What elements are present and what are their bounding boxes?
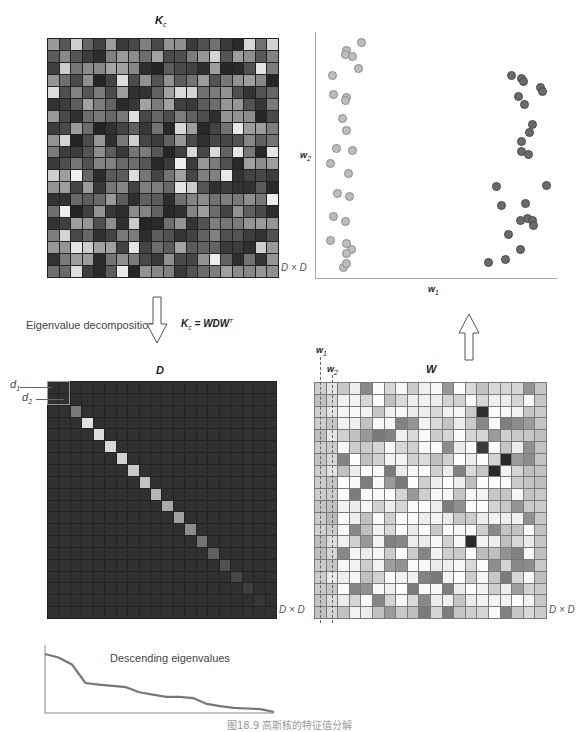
w-cell xyxy=(385,489,396,500)
d-cell xyxy=(48,465,58,476)
kc-cell xyxy=(152,230,163,241)
d-cell xyxy=(48,489,58,500)
scatter-point-dark xyxy=(519,77,528,86)
w-cell xyxy=(501,395,512,406)
d-cell xyxy=(254,489,264,500)
w-cell xyxy=(373,501,384,512)
d-cell xyxy=(59,441,69,452)
d-cell xyxy=(254,512,264,523)
kc-cell xyxy=(152,147,163,158)
kc-cell xyxy=(187,135,198,146)
d-cell xyxy=(231,382,241,393)
w-cell xyxy=(431,595,442,606)
d-cell xyxy=(71,524,81,535)
d-diagonal-cell xyxy=(197,536,207,547)
d-diagonal-cell xyxy=(254,595,264,606)
w-cell xyxy=(535,595,546,606)
d-cell xyxy=(243,524,253,535)
kc-cell xyxy=(256,230,267,241)
kc-cell xyxy=(60,111,71,122)
kc-cell xyxy=(129,111,140,122)
w-cell xyxy=(454,584,465,595)
w-cell xyxy=(466,595,477,606)
w-cell xyxy=(385,454,396,465)
kc-cell xyxy=(71,194,82,205)
kc-cell xyxy=(221,266,232,277)
d-cell xyxy=(220,429,230,440)
w-cell xyxy=(408,407,419,418)
kc-cell xyxy=(267,182,278,193)
kc-cell xyxy=(256,194,267,205)
d-cell xyxy=(105,536,115,547)
w-cell xyxy=(361,383,372,394)
kc-cell xyxy=(94,75,105,86)
d-cell xyxy=(231,465,241,476)
kc-cell xyxy=(94,111,105,122)
w-cell xyxy=(466,501,477,512)
d-cell xyxy=(162,572,172,583)
kc-cell xyxy=(71,99,82,110)
d-cell xyxy=(197,382,207,393)
w-cell xyxy=(512,395,523,406)
kc-cell xyxy=(164,75,175,86)
d2-leader xyxy=(36,399,64,400)
kc-cell xyxy=(71,75,82,86)
kc-title-sub: c xyxy=(163,21,167,28)
d-cell xyxy=(140,418,150,429)
kc-cell xyxy=(233,99,244,110)
w-cell xyxy=(419,430,430,441)
kc-cell xyxy=(244,194,255,205)
kc-cell xyxy=(83,242,94,253)
kc-cell xyxy=(187,206,198,217)
w-cell xyxy=(431,584,442,595)
kc-cell xyxy=(210,111,221,122)
w-cell xyxy=(431,454,442,465)
kc-cell xyxy=(164,230,175,241)
kc-cell xyxy=(233,39,244,50)
kc-cell xyxy=(221,75,232,86)
d-cell xyxy=(151,477,161,488)
kc-cell xyxy=(94,63,105,74)
kc-cell xyxy=(187,87,198,98)
w-cell xyxy=(361,548,372,559)
kc-cell xyxy=(83,158,94,169)
kc-cell xyxy=(129,266,140,277)
kc-cell xyxy=(198,135,209,146)
scatter-point-dark xyxy=(501,255,510,264)
kc-cell xyxy=(210,99,221,110)
w-cell xyxy=(454,595,465,606)
kc-cell xyxy=(187,123,198,134)
scatter-point-light xyxy=(344,169,353,178)
kc-cell xyxy=(60,206,71,217)
d-cell xyxy=(128,512,138,523)
w-cell xyxy=(501,572,512,583)
kc-cell xyxy=(117,51,128,62)
kc-cell xyxy=(94,206,105,217)
d-cell xyxy=(82,489,92,500)
w-cell xyxy=(477,595,488,606)
figure-caption: 图18.9 高斯核的特征值分解 xyxy=(227,717,352,732)
w-cell xyxy=(524,454,535,465)
kc-cell xyxy=(221,135,232,146)
d-cell xyxy=(105,607,115,618)
d-cell xyxy=(197,418,207,429)
kc-cell xyxy=(233,111,244,122)
d-cell xyxy=(266,489,276,500)
w-cell xyxy=(385,584,396,595)
d-cell xyxy=(140,465,150,476)
d-cell xyxy=(117,489,127,500)
kc-cell xyxy=(140,182,151,193)
d-diagonal-cell xyxy=(231,572,241,583)
kc-cell xyxy=(221,123,232,134)
d-cell xyxy=(208,382,218,393)
w-cell xyxy=(454,454,465,465)
w-cell xyxy=(535,501,546,512)
w-cell xyxy=(408,584,419,595)
w-cell xyxy=(477,607,488,618)
w-cell xyxy=(477,407,488,418)
d-cell xyxy=(174,465,184,476)
w-cell xyxy=(524,536,535,547)
scatter-point-dark xyxy=(517,137,526,146)
kc-cell xyxy=(71,254,82,265)
kc-cell xyxy=(48,135,59,146)
